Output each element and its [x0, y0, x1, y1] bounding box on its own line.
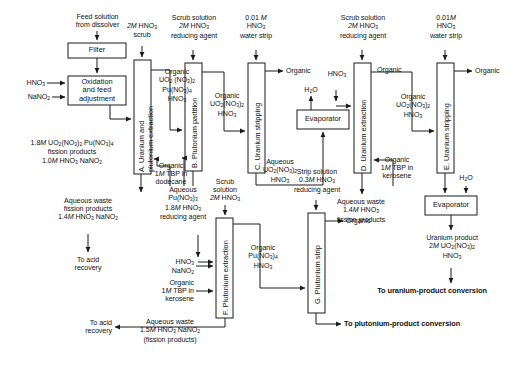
h2o-evap1-label: H2O	[295, 86, 327, 95]
hno3-evap1-label: HNO3	[320, 70, 354, 79]
evaporator-1-label: Evaporator	[297, 110, 349, 129]
aqueous-waste-d-label: Aqueous waste1.4M HNO3fission products	[312, 198, 410, 224]
organic-b-to-c-label: OrganicUO2(NO3)2HNO3	[204, 92, 250, 119]
aqueous-waste-a-label: Aqueous wastefission products1.4M HNO3 N…	[28, 197, 148, 223]
column-g-label: G. Plutonium strip	[313, 245, 322, 304]
water-strip-c-label: 0.01 MHNO3water strip	[228, 14, 284, 40]
strip-solution-g-label: Strip solution0.3M HNO3reducing agent	[282, 168, 352, 194]
to-plutonium-conversion-label: To plutonium-product conversion	[344, 320, 514, 328]
scrub-d-label: Scrub solution2M HNO3reducing agent	[327, 14, 399, 40]
to-acid-recovery-1-label: To acidrecovery	[58, 256, 118, 272]
nano2-feed-label: NaNO2	[0, 93, 50, 102]
path-col-g-to-conversion	[316, 313, 341, 324]
organic-d-to-e-label: OrganicUO2(NO3)2HNO3	[389, 93, 437, 120]
aqueous-waste-f-label: Aqueous waste1.5M HNO3 NaNO2(fission pro…	[118, 318, 222, 344]
organic-tbp-dodecane-label: Organic1M TBP indodecane	[145, 162, 197, 187]
oxidation-box-label: Oxidation and feed adjustment	[68, 76, 126, 105]
water-strip-e-label: 0.01MHNO3water strip	[418, 14, 474, 40]
organic-out-d-label: Organic	[377, 66, 417, 74]
process-flow-diagram: Filter Oxidation and feed adjustment Eva…	[0, 0, 514, 367]
organic-tbp-kerosene-f-label: Organic1M TBP inkerosene	[136, 279, 194, 304]
organic-a-to-b-label: OrganicUO2 (NO3)2Pu(NO3)4HNO3	[152, 68, 202, 104]
to-uranium-conversion-label: To uranium-product conversion	[352, 287, 512, 295]
column-f-label: F. Plutonium extraction	[221, 240, 230, 315]
scrub-b-label: Scrub solution2M HNO3reducing agent	[158, 14, 230, 40]
column-d-label: D. Uranium extraction	[359, 100, 368, 171]
to-acid-recovery-2-label: To acidrecovery	[58, 319, 112, 335]
path-oxidation-to-col-a	[110, 105, 131, 119]
hno3-feed-label: HNO3	[0, 79, 45, 88]
hno3-nano2-f-label: HNO3NaNO2	[140, 258, 194, 277]
organic-tbp-kerosene-d-label: Organic1M TBP inkerosene	[370, 156, 424, 181]
feed-adjust-out-label: 1.8M UO2(NO3)2 Pu(NO3)4fission products1…	[13, 139, 131, 166]
scrub-f-label: Scrubsolution2M HNO3	[200, 178, 250, 204]
uranium-product-label: Uranium product2M UO2(NO3)2HNO3	[404, 234, 500, 261]
organic-out-e-label: Organic	[475, 67, 514, 75]
filter-box-label: Filter	[68, 43, 126, 58]
evaporator-2-label: Evaporator	[425, 196, 477, 215]
h2o-evap2-label: H2O	[450, 174, 482, 183]
column-e-label: E. Uranium stripping	[442, 103, 451, 170]
organic-f-to-g-label: OrganicPu(NO3)4HNO3	[240, 244, 286, 271]
column-b-label: B. Plutonium partition	[190, 98, 199, 168]
